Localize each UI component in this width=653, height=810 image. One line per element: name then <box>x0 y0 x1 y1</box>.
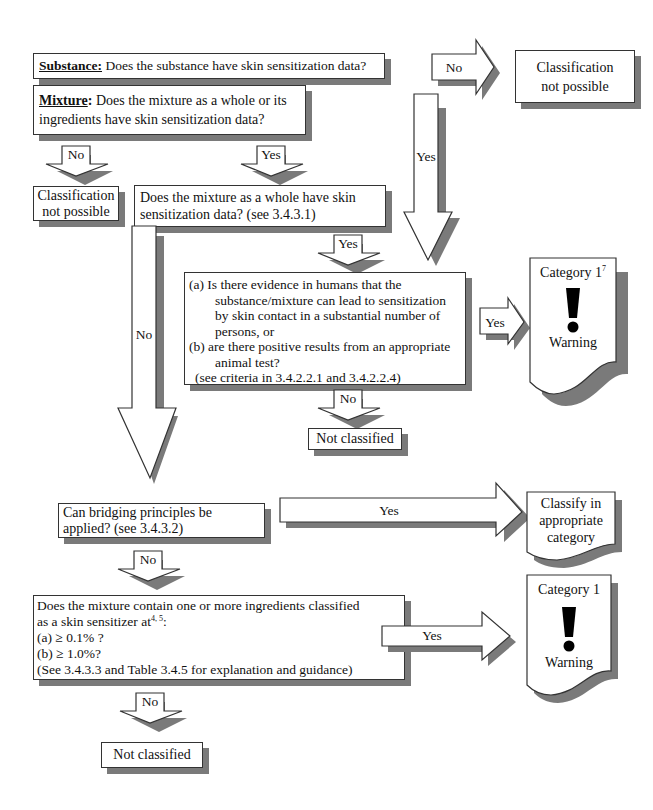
not-classified-box: Not classified <box>308 428 402 450</box>
arrow-label-no: No <box>432 60 476 76</box>
signal-word: Warning <box>527 655 611 671</box>
arrow-label-no: No <box>134 694 166 710</box>
mixture-label: Mixture <box>39 93 88 108</box>
classify-appropriate-category: Classify in appropriate category <box>527 495 615 546</box>
arrow-label-no: No <box>132 552 164 568</box>
exclamation-icon <box>557 605 581 653</box>
arrow-label-yes: Yes <box>280 503 498 519</box>
category-1-bottom: Category 1 Warning <box>527 575 611 695</box>
arrow-label-yes: Yes <box>332 236 364 252</box>
arrow-label-yes: Yes <box>255 147 287 163</box>
mixture-question-box: Mixture: Does the mixture as a whole or … <box>33 85 306 135</box>
exclamation-icon <box>561 286 585 334</box>
substance-question: Does the substance have skin sensitizati… <box>102 58 366 73</box>
arrow-label-yes: Yes <box>480 315 510 331</box>
arrow-label-yes: Yes <box>414 149 438 165</box>
evidence-question-box: (a) Is there evidence in humans that the… <box>184 272 466 385</box>
substance-label: Substance: <box>39 58 102 73</box>
arrow-label-no: No <box>332 391 364 407</box>
category-1-top: Category 17 Warning <box>530 258 616 388</box>
classification-not-possible-box: Classification not possible <box>515 50 635 103</box>
bridging-question-box: Can bridging principles be applied? (see… <box>58 503 265 538</box>
classification-not-possible-box: Classification not possible <box>33 186 119 221</box>
ingredients-question-box: Does the mixture contain one or more ing… <box>33 595 405 680</box>
category-title: Category 1 <box>540 265 602 280</box>
arrow-label-no: No <box>132 327 156 343</box>
arrow-label-yes: Yes <box>382 628 482 644</box>
arrow-down-icon <box>402 94 472 269</box>
not-classified-box: Not classified <box>101 742 203 768</box>
arrow-label-no: No <box>60 147 92 163</box>
arrow-right-icon <box>380 614 530 674</box>
substance-question-box: Substance: Does the substance have skin … <box>33 53 385 79</box>
signal-word: Warning <box>530 335 616 351</box>
mixture-whole-question-box: Does the mixture as a whole have skin se… <box>134 185 386 227</box>
category-title: Category 1 <box>527 582 611 598</box>
